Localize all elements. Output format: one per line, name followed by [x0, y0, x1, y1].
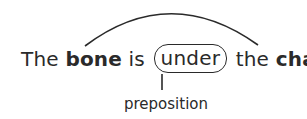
preposition-label: preposition — [124, 95, 208, 113]
word-subject: bone — [65, 47, 122, 71]
word-article: the — [236, 47, 269, 71]
example-sentence: The bone is under the chair. — [21, 45, 307, 74]
relation-arc — [85, 14, 258, 46]
word-the: The — [21, 47, 59, 71]
word-object: chair — [276, 47, 307, 71]
preposition-box: under — [154, 44, 228, 73]
word-preposition: under — [161, 46, 221, 70]
word-verb: is — [129, 47, 145, 71]
